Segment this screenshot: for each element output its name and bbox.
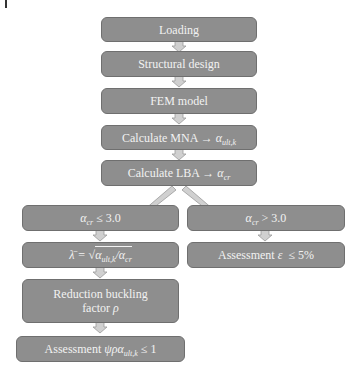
node-calculate-mna: Calculate MNA → αult,k [101,125,257,150]
node-assessment-final: Assessment ψραult,k ≤ 1 [16,336,185,362]
node-label: Calculate MNA → αult,k [122,131,236,145]
node-label: Assessment ε ≤ 5% [218,248,314,262]
arrow-down-icon [172,76,186,87]
node-label: Loading [159,23,199,37]
node-label: Assessment ψραult,k ≤ 1 [45,342,157,356]
node-assessment-epsilon: Assessment ε ≤ 5% [187,242,345,268]
node-slenderness: λ̄ = √αult,k/αcr [22,242,179,268]
arrow-down-icon [258,230,272,241]
arrow-down-icon [172,113,186,124]
node-label: λ̄ = √αult,k/αcr [69,248,132,262]
node-loading: Loading [101,17,257,42]
node-label: Calculate LBA → αcr [128,166,231,180]
arrow-down-icon [93,322,107,333]
node-label: αcr ≤ 3.0 [80,211,121,225]
node-label: FEM model [150,94,208,108]
node-label-line1: Reduction buckling [53,287,147,301]
arrow-down-icon [172,149,186,160]
node-label-line2: factor ρ [82,301,119,315]
node-structural-design: Structural design [101,51,257,77]
node-calculate-lba: Calculate LBA → αcr [101,160,257,186]
node-label: αcr > 3.0 [246,211,287,225]
node-fem-model: FEM model [101,88,257,114]
node-reduction-buckling-factor: Reduction buckling factor ρ [22,279,179,323]
node-label: Structural design [138,57,220,71]
arrow-down-icon [93,267,107,278]
arrow-down-icon [93,230,107,241]
node-branch-alpha-cr-le-3: αcr ≤ 3.0 [22,205,179,231]
node-branch-alpha-cr-gt-3: αcr > 3.0 [187,205,345,231]
